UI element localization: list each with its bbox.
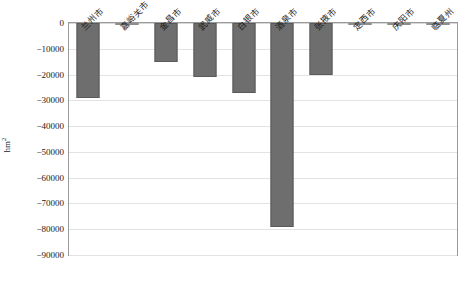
bar-slot [224,23,263,255]
y-axis-tick-label: −60000 [20,173,64,183]
y-axis-tick-label: −20000 [20,70,64,80]
y-axis-tick-label: −70000 [20,198,64,208]
chart-figure: hm2 0−10000−20000−30000−40000−50000−6000… [0,0,476,281]
bar-slot [302,23,341,255]
y-axis-tick-label: −90000 [20,250,64,260]
bar [77,23,100,98]
gridline [69,255,457,256]
bar-slot [108,23,147,255]
y-axis-title-superscript: 2 [0,138,7,141]
y-axis-tick-label: −30000 [20,95,64,105]
bar-slot [263,23,302,255]
y-axis-tick-label: −40000 [20,121,64,131]
bar-slot [418,23,457,255]
y-axis-tick-label: −10000 [20,44,64,54]
y-axis-tick-label: −50000 [20,147,64,157]
bar-slot [147,23,186,255]
plot-area [68,22,458,256]
bar [310,23,333,75]
bar-slot [341,23,380,255]
y-axis-tick-label: 0 [20,18,64,28]
bar [193,23,216,77]
bar [271,23,294,227]
bar-slot [69,23,108,255]
bar-slot [185,23,224,255]
bar-slot [379,23,418,255]
y-axis-title: hm2 [0,115,12,175]
y-axis-tick-label: −80000 [20,224,64,234]
y-axis-title-text: hm [2,141,12,153]
bar [232,23,255,93]
bar-series [69,23,457,255]
